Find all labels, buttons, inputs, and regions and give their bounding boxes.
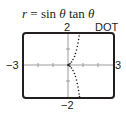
- plot-area: [0, 0, 126, 114]
